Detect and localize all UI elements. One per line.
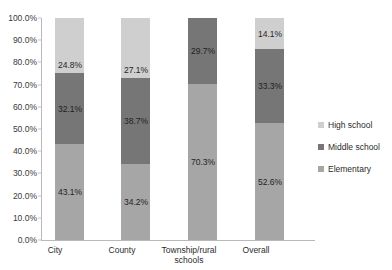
bar-county-segment-middle-school[interactable]: 38.7% [121,78,150,164]
y-tick-0: 0.0% [1,236,41,245]
y-axis-tick-labels: 100.0% 90.0% 80.0% 70.0% 60.0% 50.0% 40.… [0,0,41,270]
bar-city[interactable]: 24.8% 32.1% 43.1% [55,18,84,240]
bar-overall-segment-middle-school[interactable]: 33.3% [255,49,284,123]
bar-overall-segment-elementary[interactable]: 52.6% [255,123,284,240]
legend-item-middle-school[interactable]: Middle school [318,139,392,155]
bar-county-segment-elementary[interactable]: 34.2% [121,164,150,240]
bar-overall[interactable]: 14.1% 33.3% 52.6% [255,18,284,240]
bar-county-label-elementary: 34.2% [124,197,148,207]
bar-city-segment-middle-school[interactable]: 32.1% [55,73,84,144]
plot-area: 24.8% 32.1% 43.1% 27.1% 38.7% 34.2% [41,18,314,240]
y-tick-60: 60.0% [1,103,41,112]
legend-swatch-icon-middle-school [318,144,324,150]
legend-label-elementary: Elementary [328,164,371,174]
x-label-overall: Overall [214,245,298,255]
y-tick-40: 40.0% [1,147,41,156]
legend: High school Middle school Elementary [318,117,392,183]
legend-item-high-school[interactable]: High school [318,117,392,133]
stacked-bar-chart: 100.0% 90.0% 80.0% 70.0% 60.0% 50.0% 40.… [0,0,392,270]
y-tick-20: 20.0% [1,192,41,201]
bar-overall-label-middle-school: 33.3% [258,81,282,91]
bar-overall-segment-high-school[interactable]: 14.1% [255,18,284,49]
bar-city-label-elementary: 43.1% [58,187,82,197]
y-tick-100: 100.0% [1,14,41,23]
legend-swatch-icon-elementary [318,166,324,172]
bar-county[interactable]: 27.1% 38.7% 34.2% [121,18,150,240]
bar-county-segment-high-school[interactable]: 27.1% [121,18,150,78]
bar-city-label-middle-school: 32.1% [58,104,82,114]
bar-county-label-high-school: 27.1% [124,65,148,75]
y-tick-50: 50.0% [1,125,41,134]
bar-city-segment-elementary[interactable]: 43.1% [55,144,84,240]
y-tick-30: 30.0% [1,169,41,178]
bar-township-rural-schools[interactable]: 29.7% 70.3% [188,18,217,240]
bar-township-segment-middle-school[interactable]: 29.7% [188,18,217,84]
x-axis-line [41,240,315,241]
bar-overall-label-high-school: 14.1% [258,29,282,39]
legend-item-elementary[interactable]: Elementary [318,161,392,177]
bar-county-label-middle-school: 38.7% [124,116,148,126]
legend-label-high-school: High school [328,120,372,130]
bar-overall-label-elementary: 52.6% [258,177,282,187]
bar-city-segment-high-school[interactable]: 24.8% [55,18,84,73]
y-tick-10: 10.0% [1,214,41,223]
legend-label-middle-school: Middle school [328,142,380,152]
bar-township-label-middle-school: 29.7% [191,46,215,56]
bar-city-label-high-school: 24.8% [58,60,82,70]
y-tick-90: 90.0% [1,36,41,45]
y-tick-80: 80.0% [1,58,41,67]
bar-township-segment-elementary[interactable]: 70.3% [188,84,217,240]
y-tick-70: 70.0% [1,81,41,90]
legend-swatch-icon-high-school [318,122,324,128]
bar-township-label-elementary: 70.3% [191,157,215,167]
